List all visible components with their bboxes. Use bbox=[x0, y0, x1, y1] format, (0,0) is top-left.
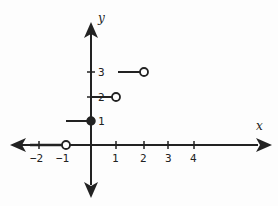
x-tick-label: 3 bbox=[165, 152, 172, 165]
y-tick-label: 2 bbox=[98, 91, 105, 104]
open-dot bbox=[112, 93, 120, 101]
x-axis-right-arrow-icon bbox=[256, 138, 272, 152]
x-tick-label: 1 bbox=[112, 152, 119, 165]
segment-y1 bbox=[66, 117, 95, 125]
graph-svg: −2 −1 1 2 3 4 1 2 3 x y bbox=[0, 0, 278, 206]
y-tick-label: 3 bbox=[98, 66, 105, 79]
step-function-graph: −2 −1 1 2 3 4 1 2 3 x y bbox=[0, 0, 278, 206]
closed-dot bbox=[87, 117, 95, 125]
x-axis-label: x bbox=[256, 119, 263, 133]
x-tick-label: −2 bbox=[30, 152, 43, 165]
x-tick-label: −1 bbox=[56, 152, 69, 165]
segment-y3 bbox=[118, 68, 148, 76]
segment-y2 bbox=[91, 93, 120, 101]
open-dot bbox=[62, 141, 70, 149]
y-tick-label: 1 bbox=[98, 115, 105, 128]
x-tick-label: 4 bbox=[190, 152, 197, 165]
open-dot bbox=[140, 68, 148, 76]
y-axis-label: y bbox=[97, 11, 105, 25]
segment-y0 bbox=[30, 141, 70, 149]
x-tick-label: 2 bbox=[140, 152, 147, 165]
y-axis bbox=[84, 22, 98, 198]
